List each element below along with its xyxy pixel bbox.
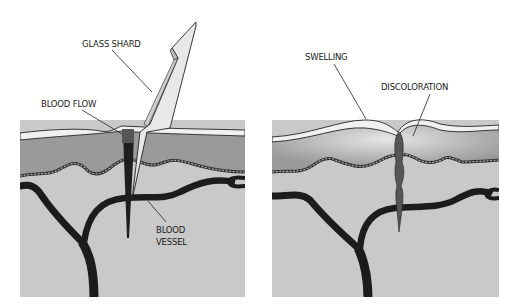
left-panel-injury (20, 120, 245, 300)
svg-text:BLOOD: BLOOD (156, 225, 186, 235)
svg-text:BLOOD FLOW: BLOOD FLOW (41, 99, 97, 109)
svg-text:GLASS SHARD: GLASS SHARD (82, 39, 141, 49)
right-panel-aftermath (272, 120, 499, 300)
label-glass-shard: GLASS SHARD (82, 39, 152, 92)
svg-text:VESSEL: VESSEL (156, 237, 187, 247)
svg-text:SWELLING: SWELLING (305, 52, 348, 62)
svg-text:DISCOLORATION: DISCOLORATION (381, 82, 448, 92)
wound-diagram: GLASS SHARD BLOOD FLOW BLOOD VESSEL SWEL… (0, 0, 515, 306)
label-swelling: SWELLING (305, 52, 366, 119)
